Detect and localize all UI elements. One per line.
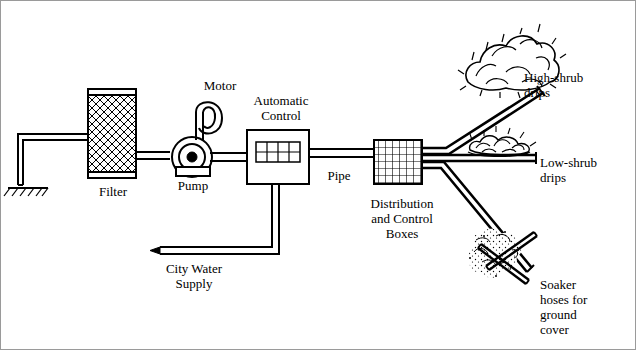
filter-tank bbox=[88, 89, 136, 178]
label-city-water-supply: City Water Supply bbox=[158, 261, 230, 291]
label-motor: Motor bbox=[190, 78, 250, 93]
pump-circle bbox=[172, 137, 212, 177]
label-filter: Filter bbox=[85, 184, 141, 199]
label-distribution: Distribution and Control Boxes bbox=[362, 196, 442, 241]
pump-to-control-pipe bbox=[210, 153, 248, 161]
distribution-grid-box bbox=[374, 140, 422, 184]
inlet-pipe bbox=[18, 134, 88, 185]
label-high-shrub-drips: High-shrub drips bbox=[524, 70, 614, 100]
automatic-control-box bbox=[247, 130, 309, 184]
label-soaker-hoses: Soaker hoses for ground cover bbox=[540, 277, 620, 337]
label-low-shrub-drips: Low-shrub drips bbox=[540, 155, 630, 185]
filter-to-pump-pipe bbox=[136, 152, 170, 159]
label-pipe: Pipe bbox=[318, 168, 360, 183]
main-pipe bbox=[309, 149, 375, 157]
ground-hatch-symbol bbox=[4, 188, 48, 196]
low-shrub-foliage bbox=[468, 126, 536, 157]
city-water-supply-line bbox=[150, 184, 279, 254]
motor-loop bbox=[196, 102, 222, 140]
label-automatic-control: Automatic Control bbox=[243, 93, 319, 123]
label-pump: Pump bbox=[168, 178, 218, 193]
diagram-canvas: Motor Automatic Control Filter Pump Pipe… bbox=[0, 0, 637, 351]
